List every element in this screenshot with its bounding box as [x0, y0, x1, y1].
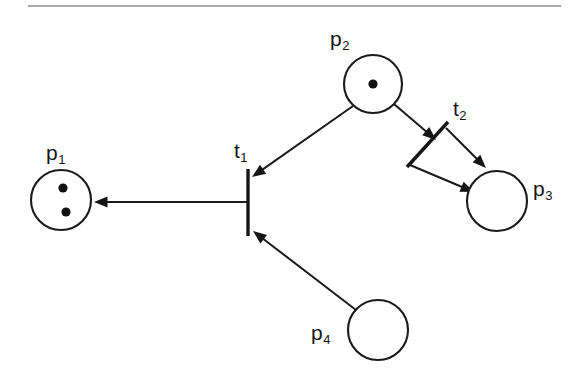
petri-net-canvas	[0, 0, 577, 387]
arc-line	[410, 165, 464, 188]
place-label-p4: p4	[311, 322, 330, 343]
arc-p2-to-t1	[252, 106, 353, 177]
arc-line	[262, 238, 356, 310]
place-p1[interactable]	[31, 170, 91, 230]
arc-t1-to-p1	[94, 197, 247, 208]
place-label-base-p1: p	[46, 141, 58, 164]
arc-t2-to-p3	[446, 128, 486, 168]
arc-line	[446, 128, 478, 160]
arrow-head-icon	[252, 165, 266, 177]
arrow-head-icon	[253, 231, 267, 244]
petri-net-figure: p1p2p3p4t1t2	[0, 0, 577, 387]
transition-label-base-t1: t	[234, 139, 240, 162]
place-label-base-p2: p	[330, 27, 342, 50]
place-label-base-p4: p	[311, 321, 323, 344]
place-label-p1: p1	[46, 142, 65, 163]
place-label-p2: p2	[330, 28, 349, 49]
token-p1-2	[61, 207, 70, 216]
token-p2-1	[368, 79, 377, 88]
place-label-sub-p3: 3	[545, 188, 552, 203]
place-p3[interactable]	[467, 171, 527, 231]
place-label-base-p3: p	[533, 177, 545, 200]
transition-label-sub-t1: 1	[240, 150, 247, 165]
place-label-p3: p3	[533, 178, 552, 199]
arc-line	[261, 106, 353, 171]
arc-layer	[94, 104, 486, 310]
place-label-sub-p4: 4	[323, 332, 330, 347]
place-p2[interactable]	[344, 55, 402, 113]
arc-p4-to-t1	[253, 231, 356, 310]
arc-t2-to-p3	[410, 165, 474, 192]
place-label-sub-p2: 2	[342, 38, 349, 53]
transition-t2[interactable]	[407, 122, 448, 167]
place-p4[interactable]	[348, 300, 408, 360]
token-p1-1	[58, 183, 67, 192]
transition-layer	[248, 122, 448, 236]
transition-label-t1: t1	[234, 140, 247, 161]
place-circle-p4[interactable]	[348, 300, 408, 360]
arc-line	[394, 104, 428, 133]
transition-label-base-t2: t	[453, 97, 459, 120]
arrow-head-icon	[94, 197, 108, 208]
place-circle-p3[interactable]	[467, 171, 527, 231]
transition-label-sub-t2: 2	[459, 108, 466, 123]
transition-label-t2: t2	[453, 98, 466, 119]
place-label-sub-p1: 1	[58, 152, 65, 167]
place-circle-p1[interactable]	[31, 170, 91, 230]
arc-p2-to-t2	[394, 104, 436, 140]
